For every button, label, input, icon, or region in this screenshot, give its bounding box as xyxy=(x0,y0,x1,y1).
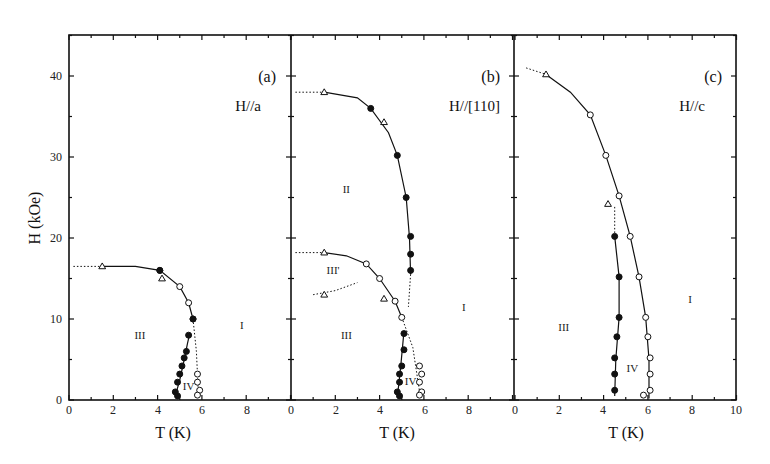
x-tick-a-0: 0 xyxy=(66,403,72,417)
x-tick-c-0: 0 xyxy=(512,403,518,417)
x-tick-b-2: 2 xyxy=(333,403,339,417)
y-tick-20: 20 xyxy=(50,231,62,245)
filled-circle-marker xyxy=(157,267,163,273)
x-tick-c-8: 8 xyxy=(689,403,695,417)
y-tick-30: 30 xyxy=(50,150,62,164)
triangle-marker xyxy=(321,291,328,297)
y-tick-labels: 0 10 20 30 40 xyxy=(50,69,62,407)
filled-circle-marker xyxy=(177,371,183,377)
x-axis-title-c: T (K) xyxy=(608,424,644,442)
filled-circle-marker xyxy=(190,316,196,322)
open-circle-marker xyxy=(627,233,633,239)
open-circle-marker xyxy=(645,334,651,340)
phase-boundary-line xyxy=(324,92,410,274)
phase-label: III xyxy=(134,329,145,341)
y-tick-10: 10 xyxy=(50,312,62,326)
y-tick-0: 0 xyxy=(56,393,62,407)
x-tick-c-2: 2 xyxy=(556,403,562,417)
open-circle-marker xyxy=(392,298,398,304)
filled-circle-marker xyxy=(401,347,407,353)
field-direction-a: H//a xyxy=(235,98,261,114)
panel-c: IIIIIV xyxy=(526,68,692,399)
open-circle-marker xyxy=(416,379,422,385)
open-circle-marker xyxy=(643,314,649,320)
panel-tag-c: (c) xyxy=(704,68,722,86)
panel-b: IIIII'IIIIIV xyxy=(295,89,466,399)
filled-circle-marker xyxy=(179,363,185,369)
filled-circle-marker xyxy=(397,371,403,377)
x-tick-c-6: 6 xyxy=(645,403,651,417)
filled-circle-marker xyxy=(181,355,187,361)
triangle-marker xyxy=(159,275,166,281)
open-circle-marker xyxy=(587,112,593,118)
phase-label: IV xyxy=(405,375,417,387)
filled-circle-marker xyxy=(394,152,400,158)
open-circle-marker xyxy=(616,193,622,199)
filled-circle-marker xyxy=(612,387,618,393)
field-direction-c: H//c xyxy=(679,98,705,114)
panel-a: IIIIIV xyxy=(73,263,244,399)
y-tick-40: 40 xyxy=(50,69,62,83)
x-tick-b-6: 6 xyxy=(422,403,428,417)
x-tick-labels-b: 0 2 4 6 8 xyxy=(288,403,472,417)
filled-circle-marker xyxy=(408,251,414,257)
filled-circle-marker xyxy=(408,233,414,239)
open-circle-marker xyxy=(647,387,653,393)
triangle-marker xyxy=(605,201,612,207)
open-circle-marker xyxy=(377,276,383,282)
x-tick-b-0: 0 xyxy=(288,403,294,417)
x-axis-title-a: T (K) xyxy=(155,424,191,442)
filled-circle-marker xyxy=(403,195,409,201)
phase-label: IV xyxy=(183,380,195,392)
phase-label: I xyxy=(240,319,244,331)
open-circle-marker xyxy=(363,261,369,267)
phase-label: III xyxy=(341,329,352,341)
filled-circle-marker xyxy=(614,334,620,340)
filled-circle-marker xyxy=(401,331,407,337)
triangle-marker xyxy=(321,249,328,255)
filled-circle-marker xyxy=(186,332,192,338)
open-circle-marker xyxy=(194,379,200,385)
filled-circle-marker xyxy=(399,363,405,369)
x-tick-labels-c: 0 2 4 6 8 10 xyxy=(512,403,742,417)
x-tick-a-4: 4 xyxy=(155,403,161,417)
x-tick-a-2: 2 xyxy=(110,403,116,417)
open-circle-marker xyxy=(416,392,422,398)
open-circle-marker xyxy=(186,300,192,306)
filled-circle-marker xyxy=(616,314,622,320)
x-tick-c-4: 4 xyxy=(600,403,606,417)
data-layer: IIIIIVIIIII'IIIIIVIIIIIV xyxy=(73,68,692,399)
filled-circle-marker xyxy=(612,371,618,377)
x-tick-b-4: 4 xyxy=(377,403,383,417)
open-circle-marker xyxy=(399,314,405,320)
phase-boundary-line xyxy=(102,266,193,319)
triangle-marker xyxy=(381,295,388,301)
open-circle-marker xyxy=(194,371,200,377)
filled-circle-marker xyxy=(175,379,181,385)
filled-circle-marker xyxy=(616,274,622,280)
phase-boundary-line xyxy=(324,253,402,318)
phase-label: I xyxy=(462,301,466,313)
open-circle-marker xyxy=(647,371,653,377)
filled-circle-marker xyxy=(397,393,403,399)
open-circle-marker xyxy=(194,392,200,398)
y-axis-title: H (kOe) xyxy=(26,192,44,245)
open-circle-marker xyxy=(640,392,646,398)
x-axis-title-b: T (K) xyxy=(379,424,415,442)
filled-circle-marker xyxy=(408,267,414,273)
filled-circle-marker xyxy=(183,348,189,354)
filled-circle-marker xyxy=(612,233,618,239)
filled-circle-marker xyxy=(368,105,374,111)
field-direction-b: H//[110] xyxy=(449,98,500,114)
x-tick-a-8: 8 xyxy=(244,403,250,417)
panel-tag-b: (b) xyxy=(481,68,500,86)
phase-diagram-figure: IIIIIVIIIII'IIIIIVIIIIIV 0 10 20 30 40 H… xyxy=(0,0,770,464)
x-tick-a-6: 6 xyxy=(199,403,205,417)
phase-label: II xyxy=(343,183,351,195)
dotted-boundary-line xyxy=(526,68,546,75)
dotted-boundary-line xyxy=(313,283,357,295)
triangle-marker xyxy=(381,119,388,125)
x-tick-b-8: 8 xyxy=(466,403,472,417)
open-circle-marker xyxy=(177,284,183,290)
dotted-boundary-line xyxy=(408,274,410,307)
